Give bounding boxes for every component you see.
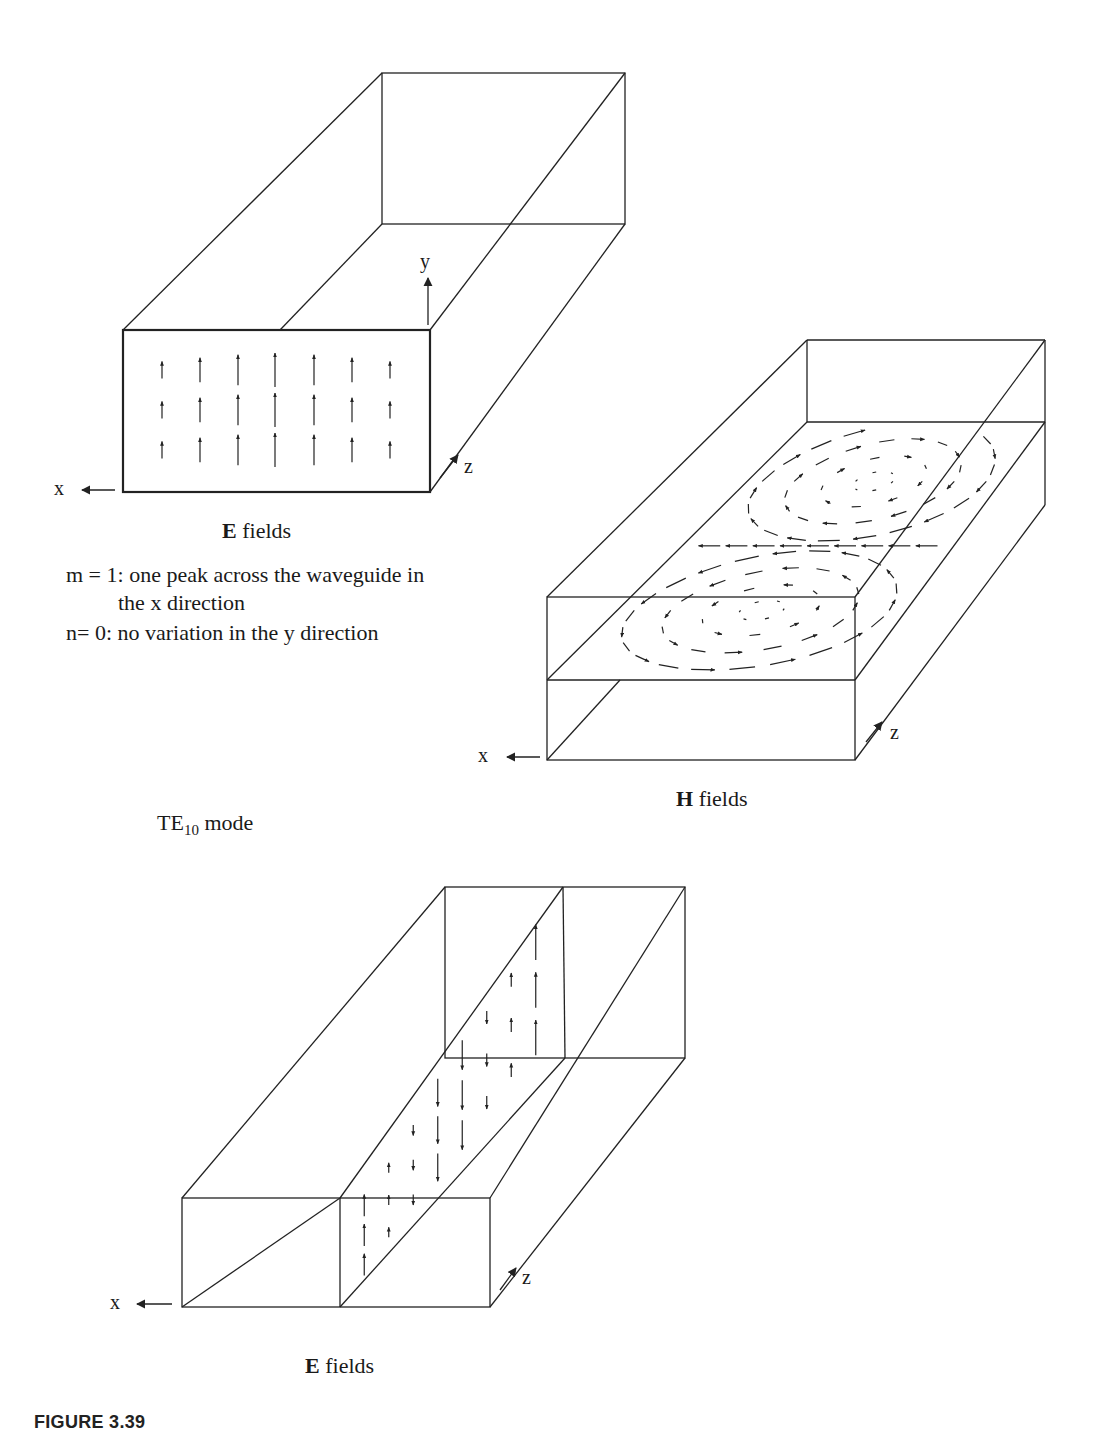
z-axis-arrow: [500, 1268, 516, 1290]
top-e-fields-title: E fields: [222, 518, 291, 544]
z-axis-arrow: [440, 455, 458, 478]
note-n: n= 0: no variation in the y direction: [66, 620, 378, 646]
bottom-e-fields-title: E fields: [305, 1353, 374, 1379]
top-waveguide: [82, 73, 625, 492]
e-field-arrows-front: [162, 353, 390, 467]
z-axis-label: z: [522, 1266, 531, 1289]
note-m-cont: the x direction: [118, 590, 245, 616]
x-axis-label: x: [54, 477, 64, 500]
z-axis-label: z: [464, 455, 473, 478]
x-axis-label: x: [110, 1291, 120, 1314]
note-m: m = 1: one peak across the waveguide in: [66, 562, 424, 588]
bottom-waveguide: [137, 887, 685, 1307]
h-waveguide: [507, 340, 1045, 760]
z-axis-label: z: [890, 721, 899, 744]
z-axis-arrow: [866, 722, 882, 742]
y-axis-label: y: [420, 250, 430, 273]
mode-label: TE10 mode: [157, 810, 253, 839]
figure-caption: FIGURE 3.39: [34, 1412, 145, 1433]
x-axis-label: x: [478, 744, 488, 767]
e-field-midplane-arrows: [364, 925, 536, 1276]
h-fields-title: H fields: [676, 786, 748, 812]
waveguide-figure: [0, 0, 1097, 1441]
